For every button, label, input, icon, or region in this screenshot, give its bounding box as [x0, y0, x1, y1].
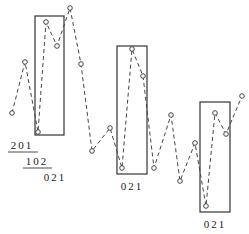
- data-point: [120, 166, 125, 171]
- data-point: [224, 132, 229, 137]
- highlight-box-1: [35, 16, 64, 135]
- data-point: [90, 149, 95, 154]
- sequence-label: 021: [204, 218, 227, 230]
- data-point: [55, 44, 60, 49]
- data-point: [108, 126, 113, 131]
- data-point: [193, 141, 198, 146]
- data-point: [240, 94, 245, 99]
- data-point: [36, 130, 41, 135]
- data-point: [169, 113, 174, 118]
- sequence-label: 021: [44, 171, 67, 183]
- data-point: [141, 74, 146, 79]
- data-point: [213, 111, 218, 116]
- data-point: [178, 179, 183, 184]
- pattern-diagram: 201102021021021: [0, 0, 249, 234]
- data-point: [23, 60, 28, 65]
- data-point: [79, 62, 84, 67]
- sequence-label: 102: [26, 155, 49, 167]
- data-point: [44, 20, 49, 25]
- sequence-label: 201: [11, 139, 34, 151]
- sequence-label: 021: [121, 180, 144, 192]
- data-point: [130, 47, 135, 52]
- data-point: [204, 204, 209, 209]
- data-point: [68, 6, 73, 11]
- data-point: [152, 166, 157, 171]
- data-point: [10, 111, 15, 116]
- highlight-box-2: [117, 46, 147, 174]
